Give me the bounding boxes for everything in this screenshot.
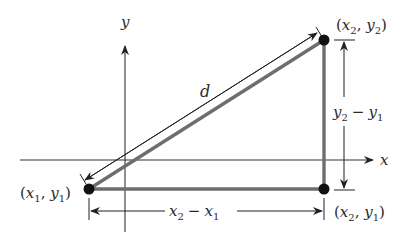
point-p3 [319,184,330,195]
point-p2-label: (x2, y2) [336,16,387,36]
distance-label: d [200,82,210,101]
horizontal-dimension: x2−x1 [89,198,324,222]
point-p2 [319,35,330,46]
hypotenuse [89,40,324,189]
horizontal-dim-label: x2−x1 [169,202,219,222]
point-p1-label: (x1, y1) [20,184,71,204]
distance-diagram: y x d x2−x1 y2−y1 [0,0,417,247]
x-axis-label: x [380,151,389,169]
point-p3-label: (x2, y1) [334,203,385,223]
y-axis-label: y [120,13,130,31]
vertical-dim-label: y2−y1 [332,103,383,123]
right-triangle [89,40,324,189]
vertical-dimension: y2−y1 [332,40,383,190]
axes: y x [20,13,389,232]
point-p1 [84,184,95,195]
